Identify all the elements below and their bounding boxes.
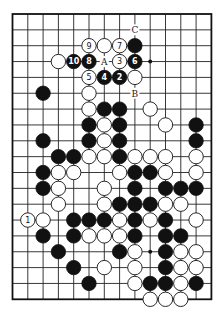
white-stone	[189, 245, 203, 259]
white-stone-1: 1	[21, 213, 35, 227]
white-stone	[128, 70, 142, 84]
white-stone	[158, 165, 172, 179]
black-stone	[112, 149, 126, 163]
white-stone	[51, 54, 65, 68]
white-stone	[97, 149, 111, 163]
move-number: 3	[117, 57, 122, 66]
white-stone	[82, 229, 96, 243]
white-stone	[51, 165, 65, 179]
point-marker-icon	[148, 250, 152, 254]
white-stone	[97, 197, 111, 211]
white-stone	[158, 118, 172, 132]
black-stone-4: 4	[97, 70, 111, 84]
black-stone	[128, 213, 142, 227]
white-stone	[189, 260, 203, 274]
white-stone	[97, 260, 111, 274]
black-stone	[189, 118, 203, 132]
point-label-b: B	[130, 88, 139, 99]
white-stone-3: 3	[112, 54, 126, 68]
black-stone	[67, 260, 81, 274]
point-marker-icon	[148, 60, 152, 64]
white-stone	[97, 39, 111, 53]
svg-text:A: A	[100, 57, 108, 67]
move-number: 10	[68, 57, 80, 66]
black-stone	[67, 213, 81, 227]
black-stone	[82, 134, 96, 148]
black-stone-10: 10	[67, 54, 81, 68]
white-stone	[51, 197, 65, 211]
white-stone	[128, 245, 142, 259]
black-stone	[82, 213, 96, 227]
white-stone	[128, 260, 142, 274]
black-stone	[143, 276, 157, 290]
black-stone	[158, 229, 172, 243]
black-stone	[36, 165, 50, 179]
white-stone	[158, 197, 172, 211]
black-stone	[128, 197, 142, 211]
black-stone	[189, 181, 203, 195]
black-stone	[112, 102, 126, 116]
white-stone	[174, 197, 188, 211]
move-number: 2	[117, 73, 123, 82]
go-board-diagram: 97108365421 CAB	[0, 0, 220, 314]
black-stone	[82, 276, 96, 290]
white-stone	[143, 102, 157, 116]
white-stone	[128, 276, 142, 290]
black-stone	[128, 229, 142, 243]
white-stone	[174, 245, 188, 259]
black-stone	[112, 118, 126, 132]
move-number: 4	[102, 73, 108, 82]
white-stone	[174, 292, 188, 306]
white-stone	[174, 260, 188, 274]
white-stone	[97, 181, 111, 195]
go-board: 97108365421 CAB	[0, 0, 220, 314]
white-stone	[189, 149, 203, 163]
black-stone	[128, 39, 142, 53]
white-stone-5: 5	[82, 70, 96, 84]
white-stone	[67, 165, 81, 179]
white-stone	[82, 102, 96, 116]
white-stone	[158, 292, 172, 306]
white-stone	[158, 149, 172, 163]
white-stone	[97, 118, 111, 132]
white-stone	[112, 229, 126, 243]
black-stone	[67, 149, 81, 163]
black-stone	[174, 229, 188, 243]
black-stone	[97, 213, 111, 227]
white-stone	[143, 149, 157, 163]
white-stone	[51, 181, 65, 195]
move-number: 8	[86, 57, 92, 66]
black-stone	[158, 260, 172, 274]
black-stone	[36, 181, 50, 195]
white-stone	[189, 165, 203, 179]
move-number: 9	[86, 42, 91, 51]
move-number: 7	[117, 42, 122, 51]
move-number: 6	[132, 57, 138, 66]
black-stone	[189, 134, 203, 148]
black-stone	[112, 197, 126, 211]
black-stone	[36, 86, 50, 100]
black-stone	[82, 118, 96, 132]
black-stone	[36, 134, 50, 148]
black-stone	[97, 102, 111, 116]
white-stone	[97, 229, 111, 243]
move-number: 5	[86, 73, 91, 82]
white-stone	[189, 213, 203, 227]
black-stone	[158, 181, 172, 195]
black-stone	[143, 165, 157, 179]
black-stone-8: 8	[82, 54, 96, 68]
white-stone	[82, 86, 96, 100]
white-stone	[97, 134, 111, 148]
white-stone	[128, 149, 142, 163]
white-stone	[143, 213, 157, 227]
black-stone	[128, 181, 142, 195]
black-stone	[174, 181, 188, 195]
white-stone-7: 7	[112, 39, 126, 53]
white-stone	[36, 213, 50, 227]
white-stone	[143, 292, 157, 306]
svg-text:C: C	[131, 25, 138, 35]
black-stone	[36, 229, 50, 243]
move-number: 1	[25, 216, 30, 225]
white-stone	[112, 213, 126, 227]
black-stone	[189, 276, 203, 290]
